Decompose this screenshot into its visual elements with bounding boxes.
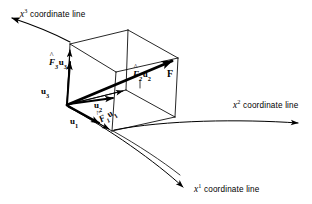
F2-basis: u2	[143, 69, 151, 79]
x2-axis-caption: coordinate line	[243, 101, 299, 110]
F3u3-label: ^F3u3	[49, 58, 67, 69]
F3-basis: u3	[59, 57, 67, 67]
u3-label: u3	[41, 87, 49, 98]
x1-axis-label: x1 coordinate line	[194, 183, 259, 194]
x2-axis-label: x2 coordinate line	[233, 99, 298, 110]
x3-axis-superscript: 3	[24, 7, 27, 14]
u3-subscript: 3	[46, 92, 49, 99]
x1-coordinate-line-secondary	[113, 131, 180, 175]
F-vector	[67, 61, 172, 105]
x3-axis-label: x3 coordinate line	[20, 8, 85, 19]
F3-coefficient-subscript: 3	[55, 63, 58, 70]
edge-pillar-right	[175, 58, 178, 117]
u1-label: u1	[70, 117, 78, 128]
x2-axis-superscript: 2	[237, 98, 240, 105]
x3-coordinate-line	[12, 18, 70, 42]
u1-subscript: 1	[75, 122, 78, 129]
F3-basis-subscript: 3	[64, 63, 67, 70]
edge-bottom-back-right	[126, 90, 175, 117]
x1-axis-caption: coordinate line	[204, 185, 260, 194]
x2-coordinate-line	[114, 121, 298, 130]
edge-top-front-left	[70, 44, 116, 72]
edge-top-back-left	[70, 30, 128, 44]
F3-hat-accent: ^	[50, 52, 54, 60]
x1-axis-superscript: 1	[198, 182, 201, 189]
F2-basis-subscript: 2	[148, 75, 151, 82]
F-symbol: F	[167, 68, 173, 79]
edge-top-back-right	[128, 30, 178, 58]
x3-axis-caption: coordinate line	[30, 10, 86, 19]
edge-pillar-mid	[112, 72, 116, 131]
vector-decomposition-figure: x3 coordinate line x2 coordinate line x1…	[0, 0, 312, 204]
F2u2-label: ^F2u2	[133, 70, 151, 81]
F2-coefficient-subscript: 2	[139, 75, 142, 82]
F-label: F	[167, 69, 173, 79]
F2-hat-accent: ^	[134, 64, 138, 72]
